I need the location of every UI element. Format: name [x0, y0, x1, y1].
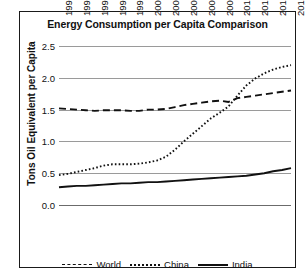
chart-title: Energy Consumption per Capita Comparison	[20, 18, 295, 30]
x-tick-label: 1994	[99, 0, 110, 16]
x-tick-label: 2006	[206, 0, 217, 16]
legend-item-china: China	[130, 259, 189, 270]
x-tick-label: 1998	[134, 0, 145, 16]
y-tick-label: 0.0	[42, 200, 55, 211]
x-tick-label: 2004	[188, 0, 199, 16]
legend-line-dashed-icon	[62, 264, 92, 265]
y-tick-label: 0.5	[42, 168, 55, 179]
y-tick-label: 1.0	[42, 136, 55, 147]
legend-label-china: China	[164, 259, 189, 270]
x-tick-label: 2002	[170, 0, 181, 16]
legend-item-world: World	[62, 259, 121, 270]
y-tick-label: 1.5	[42, 104, 55, 115]
series-line-india	[59, 168, 291, 187]
x-tick-label: 1996	[117, 0, 128, 16]
x-tick-label: 2012	[259, 0, 270, 16]
x-tick-label: 1990	[63, 0, 74, 16]
x-tick-label: 2010	[241, 0, 252, 16]
series-line-china	[59, 65, 291, 175]
series-line-world	[59, 91, 291, 111]
y-axis-label: Tons Oil Equivalent per Capita	[26, 39, 37, 189]
chart-legend: World China India	[20, 259, 295, 270]
legend-line-dotted-icon	[130, 264, 160, 266]
legend-line-solid-icon	[198, 264, 228, 266]
series-lines	[59, 46, 291, 205]
plot-area: 0.00.51.01.52.02.5	[59, 46, 291, 205]
chart-frame: Energy Consumption per Capita Comparison…	[19, 11, 296, 268]
x-tick-label: 2016	[295, 0, 306, 16]
legend-label-india: India	[232, 259, 253, 270]
legend-item-india: India	[198, 259, 253, 270]
x-tick-label: 1992	[81, 0, 92, 16]
x-tick-label: 2008	[224, 0, 235, 16]
y-tick-label: 2.0	[42, 72, 55, 83]
x-tick-label: 2014	[277, 0, 288, 16]
legend-label-world: World	[96, 259, 121, 270]
x-tick-label: 2000	[152, 0, 163, 16]
y-tick-label: 2.5	[42, 41, 55, 52]
x-axis-line	[59, 205, 291, 206]
